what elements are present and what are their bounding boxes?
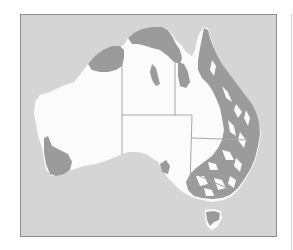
australia-map	[0, 0, 293, 250]
shaded-kimberley	[88, 46, 124, 72]
